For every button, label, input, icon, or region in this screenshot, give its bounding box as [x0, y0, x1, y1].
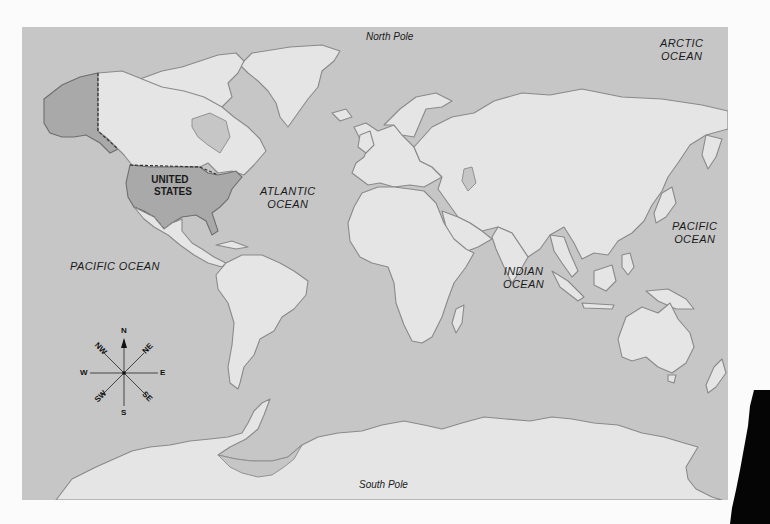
landmass-philippines [622, 253, 634, 275]
compass-n: N [121, 326, 127, 335]
united-states-label: UNITED STATES [148, 174, 192, 198]
south-pole-label: South Pole [359, 478, 408, 491]
pacific-ocean-west-label: PACIFIC OCEAN [70, 260, 160, 273]
landmass-australia [618, 303, 694, 373]
united-states-label-line1: UNITED [148, 174, 192, 186]
world-map: North Pole South Pole ARCTIC OCEAN ATLAN… [22, 27, 728, 500]
landmass-madagascar [452, 305, 464, 333]
arctic-ocean-label-line1: ARCTIC [660, 37, 703, 50]
pacific-ocean-east-label-line2: OCEAN [672, 233, 717, 246]
compass-s: S [121, 408, 126, 417]
north-pole-label: North Pole [366, 30, 413, 43]
arctic-ocean-label-line2: OCEAN [660, 50, 703, 63]
landmass-cuba [216, 241, 248, 249]
compass-e: E [160, 368, 165, 377]
landmass-iceland [332, 109, 352, 121]
landmass-borneo [594, 265, 616, 291]
landmass-south-america [216, 255, 308, 389]
compass-w: W [80, 368, 88, 377]
pacific-ocean-east-label-line1: PACIFIC [672, 220, 717, 233]
pacific-ocean-east-label: PACIFIC OCEAN [672, 220, 717, 246]
atlantic-ocean-label: ATLANTIC OCEAN [260, 185, 316, 211]
indian-ocean-label: INDIAN OCEAN [503, 265, 544, 291]
landmass-java [582, 303, 614, 309]
landmass-greenland [240, 45, 340, 127]
atlantic-ocean-label-line2: OCEAN [260, 198, 316, 211]
indian-ocean-label-line1: INDIAN [503, 265, 544, 278]
landmass-new-zealand [706, 359, 726, 393]
north-arrow-icon [121, 338, 127, 348]
compass-rose-icon: N NE E SE S SW W NW [76, 326, 176, 422]
scan-torn-edge [730, 390, 770, 524]
landmass-kamchatka [702, 135, 722, 169]
landmass-tasmania [668, 375, 676, 383]
atlantic-ocean-label-line1: ATLANTIC [260, 185, 316, 198]
indian-ocean-label-line2: OCEAN [503, 278, 544, 291]
landmass-sumatra [552, 271, 584, 301]
united-states-label-line2: STATES [148, 186, 192, 198]
arctic-ocean-label: ARCTIC OCEAN [660, 37, 703, 63]
